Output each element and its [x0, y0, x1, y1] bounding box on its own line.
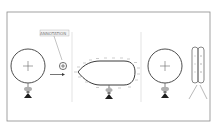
stand-base-icon [161, 93, 169, 98]
diagram-frame [7, 12, 210, 121]
callout-leader [54, 36, 62, 60]
callout-label: ANNOTATION [40, 31, 66, 36]
teardrop-conductor-icon [78, 61, 135, 85]
string-left [189, 85, 197, 99]
diagram-canvas [0, 0, 218, 124]
test-charge [59, 62, 66, 69]
insulator-icon [106, 88, 113, 92]
panel-2-conductor [74, 58, 140, 99]
stand-base-icon [24, 93, 32, 98]
panel-1-sphere [11, 49, 45, 98]
arrow-right-icon [50, 73, 65, 76]
stand-base-icon [105, 94, 113, 99]
insulator-icon [161, 87, 169, 91]
panel-3-sphere [148, 49, 182, 98]
string-right [200, 85, 207, 99]
leaf-left-icon [192, 47, 198, 83]
electroscope [189, 47, 207, 99]
insulator-icon [24, 87, 32, 91]
